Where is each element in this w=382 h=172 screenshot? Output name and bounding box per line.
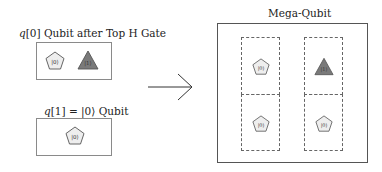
q1-title-var: q <box>44 105 51 117</box>
mega-qubit-title: Mega-Qubit <box>268 7 331 19</box>
right-arrow-icon <box>148 68 198 108</box>
pentagon-zero-icon: |0⟩ <box>252 58 270 76</box>
svg-text:|0⟩: |0⟩ <box>258 122 265 129</box>
svg-text:|1⟩: |1⟩ <box>321 66 328 73</box>
q0-qubit-box: |0⟩ |1⟩ <box>36 42 112 80</box>
q1-title: q[1] = |0⟩ Qubit <box>44 105 128 117</box>
cell-r0-c1: |1⟩ <box>304 37 343 95</box>
q0-title-var: q <box>19 27 26 39</box>
svg-text:|0⟩: |0⟩ <box>71 134 79 141</box>
svg-text:|0⟩: |0⟩ <box>321 122 328 129</box>
pentagon-zero-icon: |0⟩ <box>65 126 85 146</box>
pentagon-zero-icon: |0⟩ <box>45 51 65 71</box>
cell-r0-c0: |0⟩ <box>241 37 280 95</box>
q0-title-text: [0] Qubit after Top H Gate <box>26 27 166 39</box>
svg-text:|0⟩: |0⟩ <box>51 59 59 66</box>
cell-r1-c1: |0⟩ <box>304 94 343 151</box>
cell-r1-c0: |0⟩ <box>241 94 280 151</box>
svg-text:|1⟩: |1⟩ <box>84 60 92 67</box>
q1-qubit-box: |0⟩ <box>36 118 112 156</box>
q1-title-text: [1] = |0⟩ Qubit <box>51 105 129 117</box>
svg-text:|0⟩: |0⟩ <box>258 65 265 72</box>
triangle-one-icon: |1⟩ <box>314 57 334 76</box>
pentagon-zero-icon: |0⟩ <box>315 115 333 133</box>
triangle-one-icon: |1⟩ <box>77 50 99 70</box>
mega-qubit-box: |0⟩ |0⟩ |1⟩ |0⟩ <box>217 23 368 163</box>
pentagon-zero-icon: |0⟩ <box>252 115 270 133</box>
q0-title: q[0] Qubit after Top H Gate <box>19 27 166 39</box>
